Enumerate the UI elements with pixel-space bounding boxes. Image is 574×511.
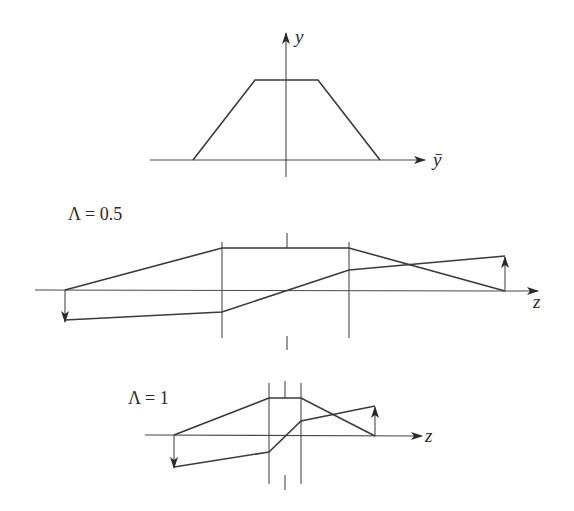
lambda-label-1: Λ = 1 — [128, 388, 169, 408]
lower-profile-b — [174, 406, 375, 467]
diagram-canvas: y ȳ Λ = 0.5 z Λ = 1 z — [0, 0, 574, 511]
ybar-axis-label: ȳ — [431, 149, 442, 170]
top-panel: y ȳ — [150, 26, 442, 177]
bottom-panel: Λ = 1 z — [128, 381, 433, 490]
lambda-label-0-5: Λ = 0.5 — [68, 204, 122, 224]
z-axis-label-middle: z — [532, 291, 541, 312]
middle-panel: Λ = 0.5 z — [35, 204, 541, 350]
upper-profile-b — [174, 398, 375, 436]
z-axis-bottom — [145, 435, 422, 436]
y-axis-label: y — [293, 26, 304, 47]
z-axis-label-bottom: z — [424, 425, 433, 446]
upper-profile — [65, 248, 505, 291]
lower-profile — [65, 256, 505, 320]
